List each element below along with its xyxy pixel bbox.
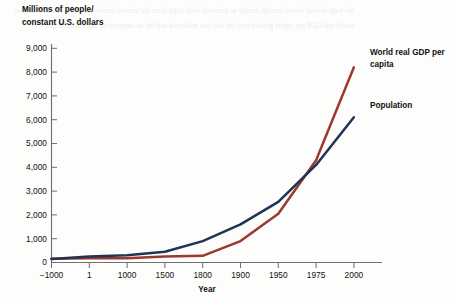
y-axis-title-line2: constant U.S. dollars — [22, 18, 104, 27]
x-tick-label-1500: 1500 — [156, 270, 175, 280]
y-tick-label-4000: 4,000 — [26, 162, 47, 172]
x-tick-label-1900: 1900 — [231, 270, 250, 280]
x-tick-label-1950: 1950 — [269, 270, 288, 280]
series-line-population — [52, 67, 354, 258]
chart-figure: Millions of people/ constant U.S. dollar… — [0, 0, 450, 297]
y-tick-label-7000: 7,000 — [26, 91, 47, 101]
chart-svg: Millions of people/ constant U.S. dollar… — [0, 0, 450, 297]
x-tick-label-1975: 1975 — [307, 270, 326, 280]
x-axis-ticks — [52, 263, 354, 269]
x-tick-label-2000: 2000 — [345, 270, 364, 280]
series-label-population: Population — [370, 101, 412, 110]
y-tick-label-8000: 8,000 — [26, 67, 47, 77]
y-axis-ticks — [52, 48, 58, 262]
x-tick-label-1000: 1000 — [118, 270, 137, 280]
y-tick-label-1000: 1,000 — [26, 234, 47, 244]
x-axis-title: Year — [198, 285, 216, 294]
y-tick-label-3000: 3,000 — [26, 186, 47, 196]
x-axis-tick-labels: −1000 1 1000 1500 1800 1900 1950 1975 20… — [40, 270, 364, 280]
y-tick-label-5000: 5,000 — [26, 138, 47, 148]
series-label-gdp-line2: capita — [370, 60, 394, 69]
y-tick-label-0: 0 — [42, 257, 47, 267]
x-tick-label-neg1000: −1000 — [40, 270, 64, 280]
y-tick-label-6000: 6,000 — [26, 115, 47, 125]
series-label-gdp-line1: World real GDP per — [370, 48, 446, 57]
y-axis-title-line1: Millions of people/ — [22, 5, 94, 14]
y-tick-label-9000: 9,000 — [26, 43, 47, 53]
series-line-gdp-per-capita — [52, 117, 354, 259]
y-axis-tick-labels: 0 1,000 2,000 3,000 4,000 5,000 6,000 7,… — [26, 43, 47, 267]
y-tick-label-2000: 2,000 — [26, 210, 47, 220]
x-tick-label-1: 1 — [87, 270, 92, 280]
x-tick-label-1800: 1800 — [193, 270, 212, 280]
